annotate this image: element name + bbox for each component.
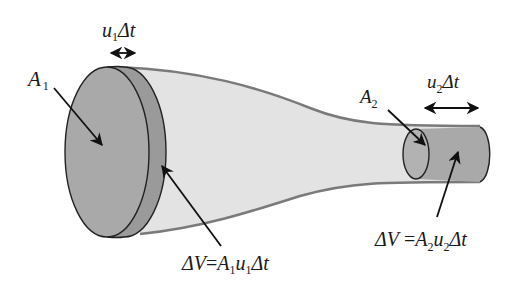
area-A1-disk xyxy=(65,67,149,237)
label-dV2-equation: ΔV =A2u2Δt xyxy=(374,228,467,254)
label-u1dt: u1Δt xyxy=(102,19,136,44)
label-A1: A1 xyxy=(26,67,49,93)
label-dV1-equation: ΔV=A1u1Δt xyxy=(181,252,269,277)
label-u2dt: u2Δt xyxy=(427,71,460,96)
pipe-diagram: u1Δt A1 A2 u2Δt ΔV=A1u1Δt ΔV =A2u2Δt xyxy=(0,0,522,287)
label-A2: A2 xyxy=(358,86,378,111)
